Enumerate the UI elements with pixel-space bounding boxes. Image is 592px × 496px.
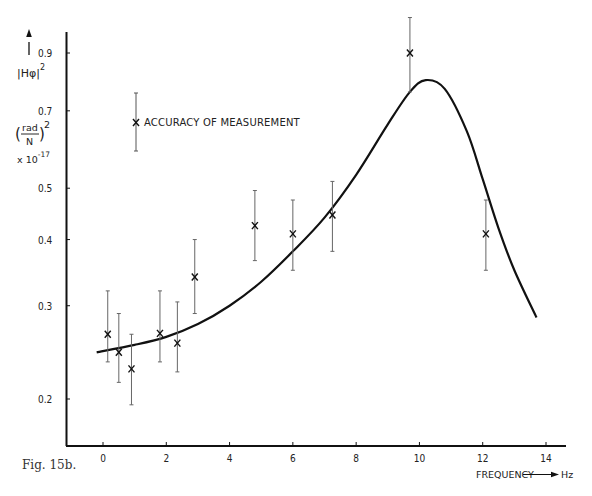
y-label-main: |Hφ|2: [17, 63, 45, 80]
x-tick-label: 8: [353, 453, 359, 464]
data-point: [329, 181, 335, 251]
data-point: [174, 302, 180, 372]
x-tick-label: 10: [414, 453, 426, 464]
right-arrow-head-icon: [551, 472, 559, 477]
x-unit: Hz: [561, 469, 573, 480]
y-tick-label: 0.7: [38, 106, 52, 117]
x-tick-label: 14: [540, 453, 552, 464]
y-tick-label: 0.3: [38, 301, 52, 312]
x-tick-label: 0: [100, 453, 106, 464]
x-tick-label: 12: [477, 453, 488, 464]
data-point: [192, 240, 198, 314]
y-ticks: 0.20.30.40.50.70.9: [38, 48, 70, 405]
y-tick-label: 0.9: [38, 48, 53, 59]
paren-open: (: [15, 125, 21, 143]
y-tick-label: 0.2: [38, 394, 52, 405]
legend-label: ACCURACY OF MEASUREMENT: [144, 117, 301, 128]
y-tick-label: 0.5: [38, 183, 52, 194]
up-arrow-head-icon: [26, 29, 32, 37]
y-scale: x 10-17: [17, 150, 50, 165]
x-tick-label: 4: [227, 453, 233, 464]
legend: ACCURACY OF MEASUREMENT: [133, 93, 301, 151]
y-tick-label: 0.4: [38, 235, 53, 246]
x-tick-label: 6: [290, 453, 296, 464]
y-units-den: N: [26, 136, 33, 147]
data-point: [157, 291, 163, 362]
figure-caption: Fig. 15b.: [22, 458, 76, 472]
axes: 0.20.30.40.50.70.9 02468101214: [38, 32, 566, 464]
data-point: [252, 191, 258, 261]
y-units-num: rad: [22, 122, 38, 133]
data-point: [290, 200, 296, 270]
data-point: [407, 18, 413, 92]
data-points: [105, 18, 489, 405]
data-point: [483, 200, 489, 270]
y-units-exp: 2: [44, 119, 50, 130]
chart-canvas: 0.20.30.40.50.70.9 02468101214 |Hφ|2 ( r…: [0, 0, 592, 496]
x-axis-label: FREQUENCY Hz: [476, 469, 573, 480]
x-tick-label: 2: [163, 453, 169, 464]
